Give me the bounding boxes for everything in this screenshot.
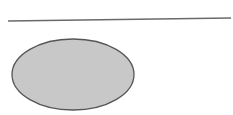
gray-ellipse [12,39,134,110]
horizontal-line [8,18,231,21]
diagram-canvas [0,0,233,115]
